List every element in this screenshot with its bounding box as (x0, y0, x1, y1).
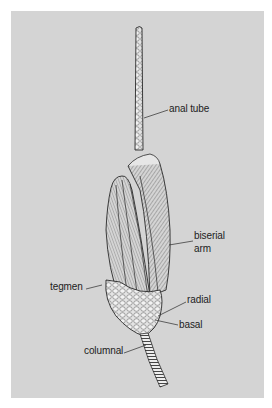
leader-biserial-arm (169, 241, 193, 245)
label-anal-tube: anal tube (169, 103, 209, 115)
crinoid-illustration (0, 0, 272, 408)
label-basal: basal (179, 319, 202, 331)
leader-basal (155, 320, 178, 325)
label-radial: radial (187, 294, 211, 306)
label-biserial-arm-line1: biserial (194, 230, 225, 242)
label-tegmen: tegmen (50, 281, 83, 293)
label-columnal: columnal (84, 345, 123, 357)
leader-anal-tube (144, 110, 168, 118)
leader-tegmen (86, 285, 102, 289)
label-biserial-arm-line2: arm (194, 243, 211, 255)
leader-columnal (124, 345, 146, 353)
calyx-arms-shape (106, 154, 170, 336)
column-shape (140, 333, 168, 387)
anal-tube-shape (135, 27, 143, 151)
